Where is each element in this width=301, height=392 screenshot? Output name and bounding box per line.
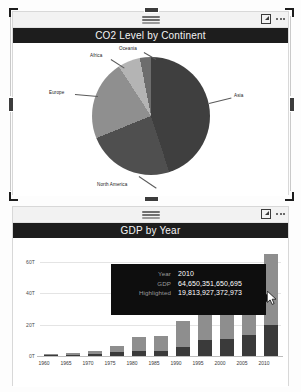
mouse-cursor xyxy=(267,291,278,306)
bar-1970[interactable] xyxy=(88,246,102,356)
pie-label-africa: Africa xyxy=(90,53,102,58)
pie-label-europe: Europe xyxy=(49,90,64,95)
y-axis-tick-40t: 40T xyxy=(15,290,35,296)
selection-handle-bottom-right[interactable] xyxy=(285,192,294,201)
selection-outline-right2 xyxy=(290,111,291,191)
x-axis-tick-1985: 1985 xyxy=(144,360,164,366)
focus-mode-icon[interactable] xyxy=(261,209,271,219)
x-axis-tick-2010: 2010 xyxy=(254,360,274,366)
selection-handle-bottom-left[interactable] xyxy=(9,192,18,201)
bar-segment-gdp[interactable] xyxy=(176,321,190,347)
selection-handle-top-left[interactable] xyxy=(9,8,18,17)
panel-title-co2: CO2 Level by Continent xyxy=(13,28,288,43)
x-axis-tick-1965: 1965 xyxy=(56,360,76,366)
selection-handle-top-right[interactable] xyxy=(285,8,294,17)
bar-segment-highlighted[interactable] xyxy=(154,351,168,356)
visual-panel-gdp[interactable]: GDP by Year xyxy=(12,206,289,386)
bar-segment-highlighted[interactable] xyxy=(44,355,58,356)
chart-tooltip: Year 2010 GDP 64,650,351,650,695 Highlig… xyxy=(111,264,266,315)
more-options-icon[interactable] xyxy=(276,18,285,20)
selection-handle-bottom[interactable] xyxy=(144,196,159,202)
y-axis-tick-60t: 60T xyxy=(15,259,35,265)
x-axis-tick-1975: 1975 xyxy=(100,360,120,366)
bar-segment-highlighted[interactable] xyxy=(66,355,80,356)
pie-chart[interactable] xyxy=(92,57,210,175)
bar-1965[interactable] xyxy=(66,246,80,356)
tooltip-row: Year 2010 xyxy=(119,270,256,277)
y-axis-tick-0t: 0T xyxy=(15,353,35,359)
visual-panel-co2[interactable]: CO2 Level by Continent Asia North Americ… xyxy=(12,11,289,195)
bar-segment-highlighted[interactable] xyxy=(242,335,256,356)
tooltip-key-year: Year xyxy=(119,270,178,277)
selection-outline-right xyxy=(290,16,291,96)
x-axis-tick-1960: 1960 xyxy=(34,360,54,366)
bar-segment-highlighted[interactable] xyxy=(176,347,190,356)
bar-1960[interactable] xyxy=(44,246,58,356)
x-axis-tick-2005: 2005 xyxy=(232,360,252,366)
selection-outline-left xyxy=(10,16,11,96)
bar-segment-gdp[interactable] xyxy=(154,336,168,351)
focus-mode-icon[interactable] xyxy=(261,14,271,24)
selection-handle-left[interactable] xyxy=(8,97,14,112)
pie-chart-area[interactable]: Asia North America Europe Africa Oceania xyxy=(13,43,288,196)
bar-segment-highlighted[interactable] xyxy=(198,340,212,356)
tooltip-value-gdp: 64,650,351,650,695 xyxy=(178,280,242,287)
tooltip-row: GDP 64,650,351,650,695 xyxy=(119,280,256,287)
tooltip-row: Highlighted 19,813,927,372,973 xyxy=(119,289,256,296)
selection-outline-left2 xyxy=(10,111,11,191)
bar-segment-highlighted[interactable] xyxy=(132,351,146,356)
bar-segment-highlighted[interactable] xyxy=(110,352,124,356)
x-axis-tick-1970: 1970 xyxy=(78,360,98,366)
pie-label-asia: Asia xyxy=(234,93,243,98)
bar-segment-gdp[interactable] xyxy=(264,254,278,325)
tooltip-value-year: 2010 xyxy=(178,270,194,277)
tooltip-key-highlighted: Highlighted xyxy=(119,289,178,296)
x-axis-tick-2000: 2000 xyxy=(210,360,230,366)
report-canvas: CO2 Level by Continent Asia North Americ… xyxy=(0,0,301,392)
y-axis-tick-20t: 20T xyxy=(15,322,35,328)
pie-label-north-america: North America xyxy=(97,182,127,187)
selection-handle-right[interactable] xyxy=(289,97,295,112)
x-axis-tick-1990: 1990 xyxy=(166,360,186,366)
bar-segment-gdp[interactable] xyxy=(132,337,146,351)
x-axis-tick-1995: 1995 xyxy=(188,360,208,366)
selection-handle-top[interactable] xyxy=(144,7,159,13)
bar-segment-highlighted[interactable] xyxy=(88,354,102,356)
pie-label-oceania: Oceania xyxy=(119,46,137,51)
more-options-icon[interactable] xyxy=(276,213,285,215)
tooltip-value-highlighted: 19,813,927,372,973 xyxy=(178,289,242,296)
leader-line-asia xyxy=(209,97,231,103)
tooltip-key-gdp: GDP xyxy=(119,280,178,287)
bar-chart-area[interactable]: 60T 40T 20T 0T 1960 1965 1970 1975 1980 … xyxy=(13,238,288,387)
panel-title-gdp: GDP by Year xyxy=(13,223,288,238)
panel-chrome-gdp xyxy=(13,207,288,223)
panel-chrome-co2 xyxy=(13,12,288,28)
bar-segment-highlighted[interactable] xyxy=(264,325,278,356)
drag-handle-icon[interactable] xyxy=(142,16,160,25)
x-axis-tick-1980: 1980 xyxy=(122,360,142,366)
drag-handle-icon[interactable] xyxy=(142,211,160,220)
leader-line-north-america xyxy=(139,176,157,188)
leader-line-europe xyxy=(75,94,98,97)
bar-segment-highlighted[interactable] xyxy=(220,339,234,356)
axis-line-x xyxy=(37,356,283,357)
